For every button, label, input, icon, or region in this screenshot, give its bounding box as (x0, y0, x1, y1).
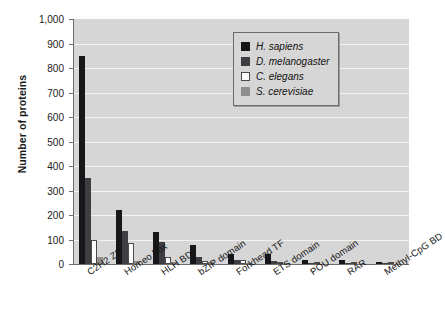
y-axis-tick-label: 400 (0, 161, 64, 172)
y-axis-tick-label: 900 (0, 38, 64, 49)
legend-swatch-icon (241, 57, 250, 66)
bar-group (339, 19, 363, 264)
y-axis-tick-label: 700 (0, 87, 64, 98)
bar-group (190, 19, 214, 264)
y-axis-tick-label: 800 (0, 63, 64, 74)
legend-item-label: C. elegans (256, 71, 304, 82)
bar-group (153, 19, 177, 264)
legend-item: C. elegans (241, 69, 329, 84)
y-axis-tick-label: 100 (0, 234, 64, 245)
bar-group (79, 19, 103, 264)
legend: H. sapiensD. melanogasterC. elegansS. ce… (233, 32, 339, 106)
legend-swatch-icon (241, 42, 250, 51)
y-axis-tick-label: 300 (0, 185, 64, 196)
y-axis-tick-label: 1,000 (0, 14, 64, 25)
y-axis-tick-label: 600 (0, 112, 64, 123)
bar-group (116, 19, 140, 264)
legend-swatch-icon (241, 87, 250, 96)
y-axis-tick-label: 500 (0, 136, 64, 147)
y-axis-tick-label: 0 (0, 259, 64, 270)
legend-item-label: D. melanogaster (256, 56, 329, 67)
legend-swatch-icon (241, 72, 250, 81)
legend-item: S. cerevisiae (241, 84, 329, 99)
legend-item: H. sapiens (241, 39, 329, 54)
legend-item-label: H. sapiens (256, 41, 303, 52)
y-axis-tick-label: 200 (0, 210, 64, 221)
legend-item-label: S. cerevisiae (256, 86, 313, 97)
legend-item: D. melanogaster (241, 54, 329, 69)
bar-group (376, 19, 400, 264)
